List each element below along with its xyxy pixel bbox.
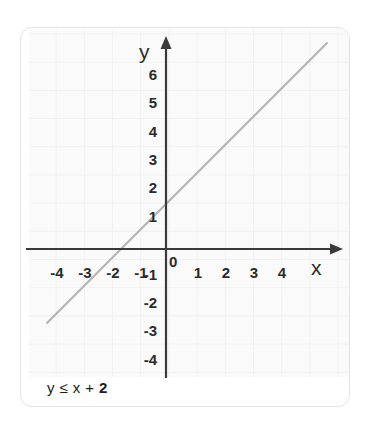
y-tick-label: -2 [131,295,157,310]
origin-tick-label: 0 [169,254,177,269]
y-tick-label: 2 [131,180,157,195]
x-tick-label: 4 [267,265,297,280]
y-tick-label: 4 [131,124,157,139]
x-axis-arrowhead [330,244,343,255]
x-tick-label: 2 [211,265,241,280]
x-tick-label: 3 [239,265,269,280]
x-tick-label: 1 [183,265,213,280]
x-axis-label: x [311,257,322,278]
y-tick-label: -3 [131,323,157,338]
y-axis-label: y [139,41,150,62]
graph-card: y x 0 -4 -3 -2 -1 1 2 3 4 6 5 4 3 2 1 -1… [20,27,350,407]
inequality-caption-text: y ≤ x + [47,379,99,396]
x-tick-label: -2 [98,265,128,280]
y-axis-arrowhead [161,36,172,49]
y-tick-label: 6 [131,67,157,82]
y-tick-label: 1 [131,209,157,224]
inequality-caption-constant: 2 [99,379,108,396]
x-tick-label: -4 [42,265,72,280]
x-tick-label: -3 [70,265,100,280]
inequality-boundary-line [47,43,327,323]
y-tick-label: -4 [131,352,157,367]
y-tick-label: -1 [131,267,157,282]
coordinate-plane [21,28,350,407]
y-tick-label: 3 [131,152,157,167]
inequality-caption: y ≤ x + 2 [47,380,108,395]
y-tick-label: 5 [131,95,157,110]
